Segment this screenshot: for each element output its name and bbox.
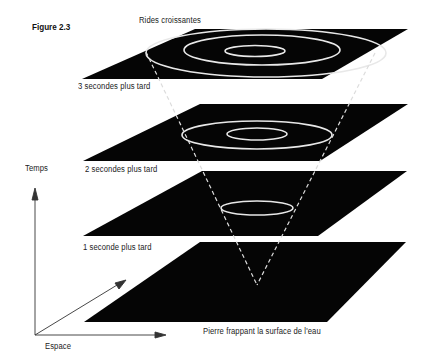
plane-3-seconds — [82, 29, 408, 79]
space-axis-arrow-icon — [155, 332, 166, 338]
plane-3-label: 3 secondes plus tard — [78, 81, 150, 91]
bottom-caption: Pierre frappant la surface de l'eau — [203, 326, 321, 336]
time-axis-label: Temps — [25, 163, 48, 173]
plane-1-label: 1 seconde plus tard — [83, 242, 151, 252]
time-axis-arrow-icon — [32, 188, 38, 200]
space-axis-label: Espace — [45, 341, 71, 351]
top-caption: Rides croissantes — [139, 15, 201, 25]
plane-impact — [84, 242, 406, 322]
figure-label: Figure 2.3 — [32, 22, 70, 32]
plane-1-second — [83, 171, 407, 236]
depth-axis-arrow-icon — [115, 280, 126, 289]
spacetime-diagram — [0, 0, 426, 358]
plane-2-seconds — [83, 104, 408, 161]
plane-2-label: 2 secondes plus tard — [85, 164, 157, 174]
